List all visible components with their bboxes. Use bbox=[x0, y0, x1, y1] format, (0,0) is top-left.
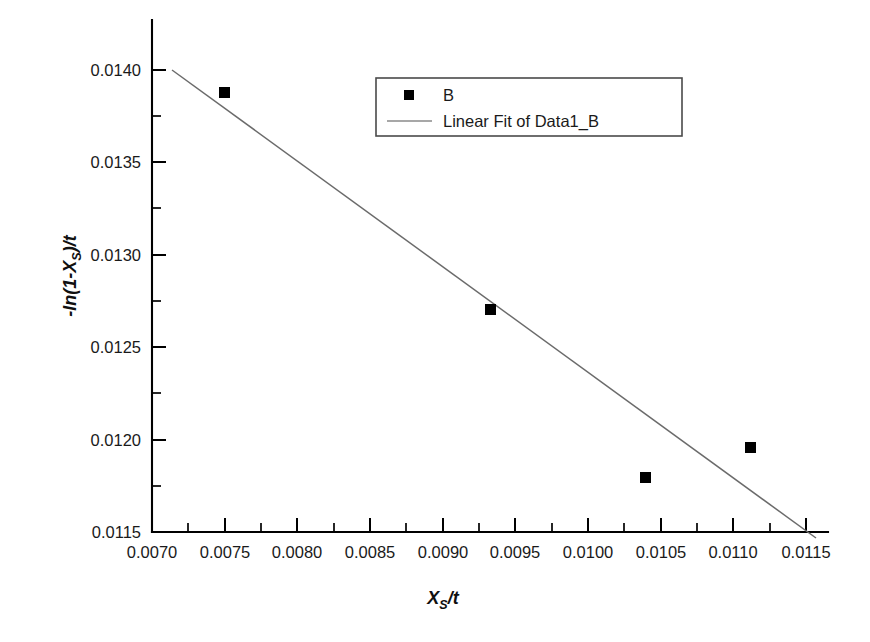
legend-label-linear-fit: Linear Fit of Data1_B bbox=[443, 112, 599, 131]
y-tick-label: 0.0120 bbox=[91, 431, 141, 449]
y-tick-label: 0.0130 bbox=[91, 246, 141, 264]
x-tick-label: 0.0070 bbox=[127, 543, 177, 561]
x-axis-title-tail: /t bbox=[447, 588, 460, 608]
data-series-b bbox=[219, 87, 756, 483]
x-tick-label: 0.0075 bbox=[200, 543, 250, 561]
svg-text:-ln(1-XS)/t: -ln(1-XS)/t bbox=[60, 234, 84, 316]
data-point-marker bbox=[640, 472, 651, 483]
y-tick-label: 0.0140 bbox=[91, 61, 141, 79]
y-axis-title: -ln(1-XS)/t bbox=[60, 234, 84, 316]
y-tick-label: 0.0125 bbox=[91, 338, 141, 356]
x-tick-labels: 0.0070 0.0075 0.0080 0.0085 0.0090 0.009… bbox=[127, 543, 831, 561]
y-tick-labels: 0.0140 0.0135 0.0130 0.0125 0.0120 0.011… bbox=[91, 61, 141, 541]
x-axis-title-main: X bbox=[426, 588, 440, 608]
x-tick-label: 0.0110 bbox=[708, 543, 757, 561]
y-axis-title-head: -ln(1- bbox=[60, 273, 80, 317]
data-point-marker bbox=[219, 87, 230, 98]
x-tick-label: 0.0100 bbox=[563, 543, 613, 561]
y-tick-label: 0.0115 bbox=[92, 523, 141, 541]
legend-marker-square bbox=[404, 90, 414, 100]
data-point-marker bbox=[485, 304, 496, 315]
data-point-marker bbox=[745, 442, 756, 453]
y-axis-title-tail: )/t bbox=[60, 234, 80, 254]
svg-text:XS/t: XS/t bbox=[426, 588, 459, 612]
x-axis-ticks bbox=[152, 518, 806, 532]
chart-figure: 0.0140 0.0135 0.0130 0.0125 0.0120 0.011… bbox=[0, 0, 870, 642]
x-tick-label: 0.0105 bbox=[636, 543, 686, 561]
scatter-plot-canvas: 0.0140 0.0135 0.0130 0.0125 0.0120 0.011… bbox=[0, 0, 870, 642]
x-axis-title: XS/t bbox=[426, 588, 459, 612]
y-axis-ticks bbox=[152, 70, 166, 532]
legend-label-b: B bbox=[443, 86, 454, 104]
y-axis-title-main: X bbox=[60, 260, 80, 274]
x-tick-label: 0.0095 bbox=[490, 543, 540, 561]
chart-legend[interactable]: B Linear Fit of Data1_B bbox=[376, 78, 682, 136]
x-tick-label: 0.0085 bbox=[345, 543, 395, 561]
y-tick-label: 0.0135 bbox=[91, 153, 141, 171]
x-tick-label: 0.0080 bbox=[272, 543, 322, 561]
x-tick-label: 0.0090 bbox=[418, 543, 468, 561]
x-tick-label: 0.0115 bbox=[781, 543, 830, 561]
